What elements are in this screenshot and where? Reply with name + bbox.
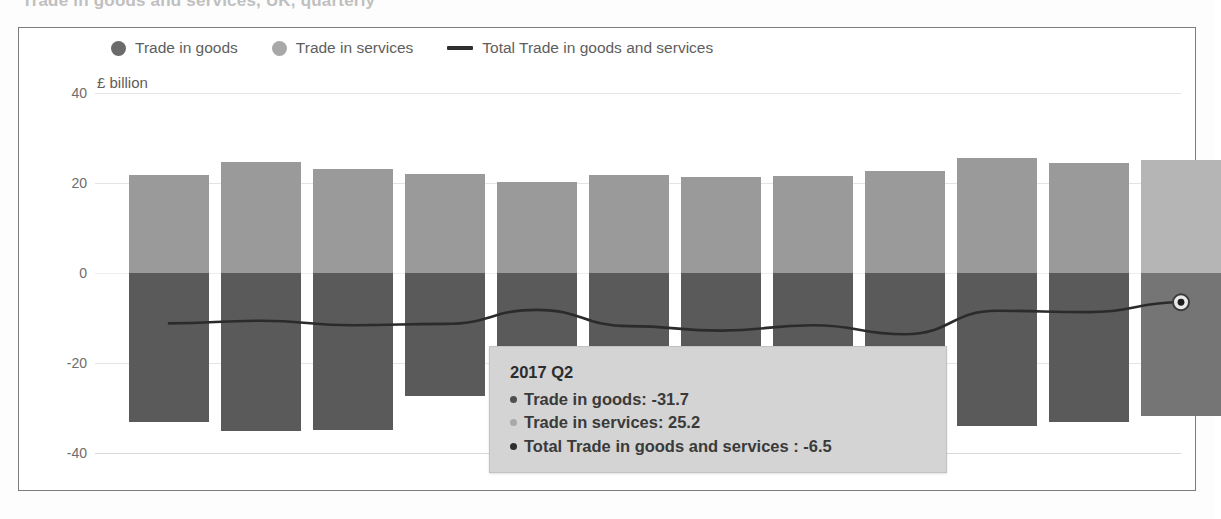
bullet-icon (510, 396, 517, 403)
y-axis-tick: -40 (39, 445, 87, 461)
y-axis-tick: -20 (39, 355, 87, 371)
bar-trade-in-services[interactable] (589, 175, 669, 273)
bar-trade-in-services[interactable] (497, 182, 577, 273)
bar-trade-in-goods[interactable] (221, 273, 301, 431)
chart-panel: Trade in goods Trade in services Total T… (18, 27, 1196, 491)
bar-trade-in-services[interactable] (313, 169, 393, 273)
bullet-icon (510, 419, 517, 426)
bar-trade-in-services[interactable] (221, 162, 301, 273)
bar-trade-in-services[interactable] (773, 176, 853, 273)
bar-trade-in-goods[interactable] (313, 273, 393, 430)
bar-trade-in-services[interactable] (681, 177, 761, 273)
y-axis-tick: 20 (39, 175, 87, 191)
y-axis-tick: 0 (39, 265, 87, 281)
bar-trade-in-services[interactable] (865, 171, 945, 273)
bar-trade-in-services[interactable] (957, 158, 1037, 273)
bar-trade-in-services[interactable] (1049, 163, 1129, 273)
bar-trade-in-goods[interactable] (405, 273, 485, 396)
bar-trade-in-services[interactable] (405, 174, 485, 273)
bar-trade-in-goods[interactable] (1141, 273, 1221, 416)
gridline (95, 93, 1181, 94)
tooltip-row-label: Total Trade in goods and services : -6.5 (524, 435, 832, 458)
y-axis-unit-label: £ billion (97, 74, 148, 91)
tooltip-row-label: Trade in services: 25.2 (524, 411, 700, 434)
cropped-page-title-text: Trade in goods and services, UK, quarter… (22, 0, 375, 11)
y-axis-tick: 40 (39, 85, 87, 101)
tooltip-row-services: Trade in services: 25.2 (510, 411, 928, 434)
bar-trade-in-services[interactable] (129, 175, 209, 273)
cropped-page-title: Trade in goods and services, UK, quarter… (0, 0, 1214, 14)
bar-trade-in-services[interactable] (1141, 160, 1221, 273)
tooltip-row-label: Trade in goods: -31.7 (524, 388, 689, 411)
tooltip-row-goods: Trade in goods: -31.7 (510, 388, 928, 411)
tooltip-title: 2017 Q2 (510, 363, 928, 382)
bullet-icon (510, 443, 517, 450)
bar-trade-in-goods[interactable] (129, 273, 209, 422)
tooltip-row-total: Total Trade in goods and services : -6.5 (510, 435, 928, 458)
bar-trade-in-goods[interactable] (1049, 273, 1129, 422)
bar-trade-in-goods[interactable] (957, 273, 1037, 426)
hover-tooltip: 2017 Q2 Trade in goods: -31.7 Trade in s… (489, 346, 947, 473)
